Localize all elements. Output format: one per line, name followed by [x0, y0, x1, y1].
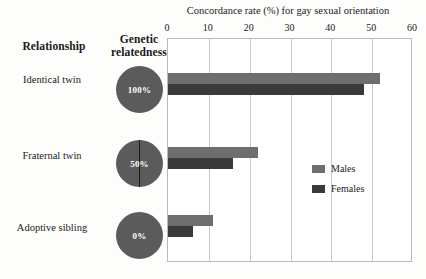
chart-legend: Males Females [312, 163, 364, 203]
x-axis-tick-20: 20 [244, 22, 254, 33]
bar-adoptive-sibling-males [168, 215, 213, 226]
x-axis-tick-50: 50 [366, 22, 376, 33]
pie-label-fraternal-twin: 50% [116, 159, 163, 169]
legend-item-males: Males [312, 163, 364, 174]
plot-area [167, 38, 412, 262]
row-label-identical-twin: Identical twin [4, 74, 100, 87]
pie-chart-fraternal-twin: 50% [116, 140, 163, 187]
x-axis-tick-40: 40 [325, 22, 335, 33]
pie-chart-identical-twin: 100% [116, 66, 163, 113]
pie-label-identical-twin: 100% [116, 85, 163, 95]
legend-label-males: Males [331, 163, 355, 174]
legend-swatch-females-icon [312, 185, 325, 193]
bar-adoptive-sibling-females [168, 226, 193, 237]
bar-identical-twin-females [168, 84, 364, 95]
x-axis-tick-30: 30 [285, 22, 295, 33]
x-axis-tick-60: 60 [407, 22, 417, 33]
chart-title: Concordance rate (%) for gay sexual orie… [150, 5, 426, 16]
legend-label-females: Females [331, 183, 364, 194]
bar-identical-twin-males [168, 73, 380, 84]
bar-fraternal-twin-females [168, 158, 233, 169]
row-label-adoptive-sibling: Adoptive sibling [4, 222, 100, 235]
row-label-fraternal-twin: Fraternal twin [4, 150, 100, 163]
x-axis-tick-10: 10 [203, 22, 213, 33]
legend-swatch-males-icon [312, 165, 325, 173]
legend-item-females: Females [312, 183, 364, 194]
figure-container: Relationship Genetic relatedness Identic… [0, 0, 426, 279]
bar-fraternal-twin-males [168, 147, 258, 158]
pie-label-adoptive-sibling: 0% [116, 231, 163, 241]
x-axis-tick-0: 0 [165, 22, 170, 33]
x-axis-tick-labels: 0102030405060 [167, 22, 412, 35]
pie-chart-adoptive-sibling: 0% [116, 212, 163, 259]
column-header-relationship: Relationship [6, 40, 102, 53]
